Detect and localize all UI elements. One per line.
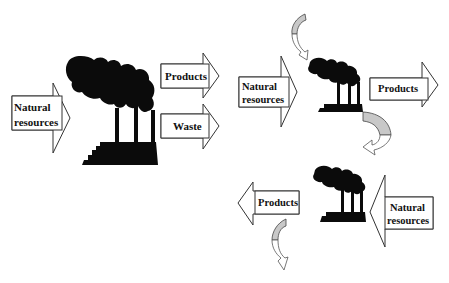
curved-arrow-icon xyxy=(292,14,308,60)
resource-flow-diagram: Natural resources Products Waste Natural… xyxy=(0,0,449,283)
bottom-products-arrow: Products xyxy=(238,182,299,225)
curved-arrow-icon xyxy=(363,112,391,155)
bottom-input-label-line1: Natural xyxy=(390,202,425,213)
top-input-arrow: Natural resources xyxy=(239,56,297,127)
bottom-input-arrow: Natural resources xyxy=(370,175,433,247)
curved-arrow-icon xyxy=(272,219,288,270)
left-input-label-line1: Natural xyxy=(14,101,51,113)
left-input-label-line2: resources xyxy=(14,116,59,128)
bottom-input-label-line2: resources xyxy=(387,215,429,226)
bottom-products-label: Products xyxy=(258,197,298,208)
factory-icon xyxy=(313,166,366,222)
left-products-label: Products xyxy=(165,70,208,82)
left-products-arrow: Products xyxy=(161,53,219,98)
factory-icon xyxy=(308,58,363,112)
left-waste-arrow: Waste xyxy=(161,104,219,149)
left-input-arrow: Natural resources xyxy=(12,83,70,153)
left-waste-label: Waste xyxy=(173,120,202,132)
factory-icon xyxy=(66,56,158,165)
diagram-canvas: Natural resources Products Waste Natural… xyxy=(0,0,449,283)
top-products-label: Products xyxy=(378,83,418,94)
top-input-label-line1: Natural xyxy=(242,81,277,92)
top-products-arrow: Products xyxy=(370,62,438,107)
top-input-label-line2: resources xyxy=(242,94,284,105)
